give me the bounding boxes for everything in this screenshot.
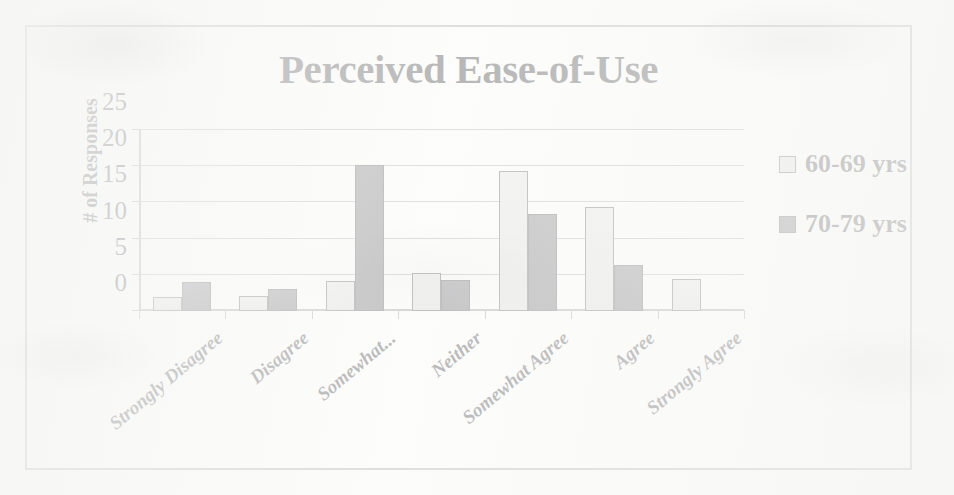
plot-area: 0510152025 Strongly DisagreeDisagreeSome… [139, 105, 744, 311]
bar[interactable] [672, 279, 701, 311]
plot-inner: 0510152025 Strongly DisagreeDisagreeSome… [139, 130, 744, 311]
y-tick-label: 15 [102, 160, 127, 188]
x-tick-mark [744, 310, 745, 319]
x-tick-label: Strongly Disagree [105, 327, 227, 434]
x-tick-label: Strongly Agree [642, 327, 746, 419]
y-tick-label: 5 [115, 233, 128, 261]
bar[interactable] [412, 273, 441, 311]
bar-group [225, 130, 311, 311]
y-tick-label: 20 [102, 124, 127, 152]
x-tick-mark [658, 310, 659, 319]
x-tick-mark [571, 310, 572, 319]
y-axis-title: # of Responses [79, 51, 102, 271]
y-tick-label: 25 [102, 88, 127, 116]
bar-group [139, 130, 225, 311]
legend-item-70-79[interactable]: 70-79 yrs [779, 209, 907, 239]
x-tick-label: Agree [610, 327, 660, 374]
x-tick-label: Somewhat... [313, 327, 400, 405]
bar[interactable] [355, 165, 384, 311]
bar[interactable] [153, 297, 182, 311]
x-tick-mark [398, 310, 399, 319]
bar-group [312, 130, 398, 311]
light-gray-swatch-icon [779, 156, 796, 173]
bar-group [398, 130, 484, 311]
bar[interactable] [528, 214, 557, 311]
bar-group [571, 130, 657, 311]
bar[interactable] [585, 207, 614, 311]
y-tick-label: 0 [115, 269, 128, 297]
bar-group [485, 130, 571, 311]
chart-frame: Perceived Ease-of-Use # of Responses 051… [25, 25, 912, 470]
legend-item-60-69[interactable]: 60-69 yrs [779, 149, 907, 179]
bar[interactable] [499, 171, 528, 311]
bar[interactable] [326, 281, 355, 311]
legend-label: 70-79 yrs [805, 209, 907, 239]
chart-title: Perceived Ease-of-Use [27, 45, 910, 93]
bar[interactable] [239, 296, 268, 311]
x-tick-mark [485, 310, 486, 319]
x-tick-label: Neither [427, 327, 486, 382]
x-tick-mark [139, 310, 140, 319]
bar-group [658, 130, 744, 311]
y-tick-label: 10 [102, 197, 127, 225]
bar[interactable] [182, 282, 211, 311]
legend-label: 60-69 yrs [805, 149, 907, 179]
bar[interactable] [441, 280, 470, 311]
x-tick-label: Disagree [246, 327, 314, 389]
x-tick-mark [312, 310, 313, 319]
dark-gray-swatch-icon [779, 216, 796, 233]
bar[interactable] [614, 265, 643, 311]
x-tick-mark [225, 310, 226, 319]
bar[interactable] [268, 289, 297, 311]
chart-legend: 60-69 yrs 70-79 yrs [779, 149, 907, 269]
